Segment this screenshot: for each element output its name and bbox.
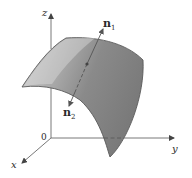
origin-label: 0	[41, 132, 47, 142]
y-axis-label: y	[171, 143, 178, 154]
n1-label: n 1	[103, 17, 115, 32]
n2-label: n 2	[63, 106, 75, 121]
svg-text:n: n	[63, 106, 71, 119]
surface-point	[85, 62, 88, 65]
surface-normals-diagram: z y x 0 n 1 n 2	[0, 0, 192, 178]
x-axis-label: x	[11, 159, 17, 170]
svg-text:n: n	[103, 17, 111, 30]
svg-text:1: 1	[111, 24, 115, 32]
svg-text:2: 2	[71, 113, 75, 121]
z-axis-label: z	[41, 7, 48, 18]
